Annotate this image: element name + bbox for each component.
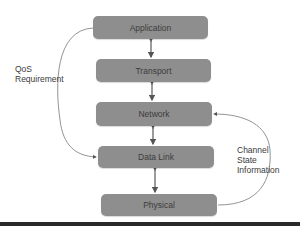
layer-label: Network	[138, 109, 169, 119]
layer-label: Data Link	[138, 152, 174, 162]
bottom-border	[0, 222, 300, 226]
layer-data-link: Data Link	[98, 146, 214, 168]
channel-state-information-label: Channel State Information	[237, 145, 280, 175]
layer-application: Application	[93, 16, 208, 39]
layer-network: Network	[96, 102, 212, 126]
layer-physical: Physical	[101, 194, 217, 216]
layer-transport: Transport	[96, 59, 211, 82]
layer-label: Physical	[143, 200, 175, 210]
layer-label: Application	[130, 23, 172, 33]
qos-requirement-label: QoS Requirement	[15, 64, 64, 84]
qos-curve	[58, 28, 96, 157]
layer-label: Transport	[135, 66, 171, 76]
